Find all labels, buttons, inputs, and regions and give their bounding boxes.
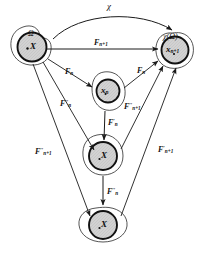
f-sub: n [68, 102, 71, 108]
arrow-label-xn-to-xmid: F′n [108, 119, 118, 127]
f-sub: n+1 [132, 105, 140, 111]
point-sub: n+1 [171, 48, 180, 54]
f-sub: n [115, 190, 118, 196]
point-sub: n [106, 89, 109, 95]
f-sub: n [70, 70, 73, 76]
arrow-omega-to-xbottom [33, 64, 90, 216]
f-sub: n+1 [99, 41, 107, 47]
arrow-label-xn-to-chiomega: Fn [137, 67, 145, 75]
f-sub: n [142, 69, 145, 75]
arrow-label-xmid-to-chiomega: F′′n+1 [124, 103, 141, 111]
node-label-xbottom-point: X [101, 220, 107, 229]
node-blob-xn [92, 72, 125, 111]
node-label-xn-point: xn [101, 86, 109, 95]
arrow-label-top-horizontal: Fn+1 [94, 39, 108, 47]
arrow-label-xbottom-to-chiomega: F′n+1 [158, 146, 173, 154]
arrow-label-xmid-to-xbottom: F′′n [107, 188, 118, 196]
node-label-xmid-point: X [101, 151, 107, 160]
arrow-label-omega-to-xmid: F′′n [60, 100, 71, 108]
node-label-chi-omega-set: χ(Ω) [163, 33, 178, 41]
arrow-xbottom-to-chiomega [121, 68, 176, 216]
arrow-label-omega-to-xn: Fn [65, 68, 73, 76]
node-label-omega-point: X [30, 42, 36, 51]
f-sub: n+1 [43, 150, 51, 156]
commutative-diagram-figure: χ Ω X χ(Ω) xn+1 xn X X Fn+1 Fn Fn F′′n F… [0, 0, 217, 253]
node-label-omega-set: Ω [28, 30, 34, 38]
arrow-chi [53, 17, 172, 39]
f-sub: n+1 [165, 148, 173, 154]
arrow-xn-to-xmid [104, 111, 105, 140]
node-label-chi-omega-point: xn+1 [166, 45, 179, 54]
f-sub: n [115, 121, 118, 127]
arc-label-chi: χ [107, 2, 111, 11]
arrow-label-omega-to-xbottom: F′′n+1 [35, 148, 52, 156]
